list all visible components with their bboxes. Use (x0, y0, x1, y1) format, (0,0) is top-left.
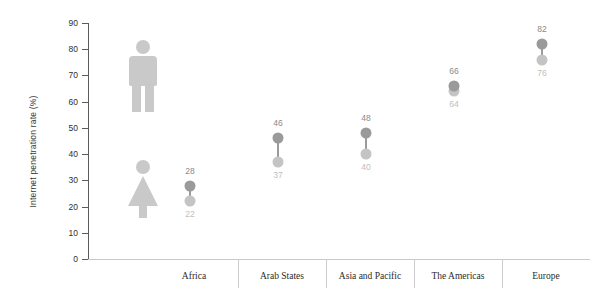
category-label-the-americas: The Americas (431, 271, 484, 281)
male-pictogram-head (136, 40, 150, 54)
male-pictogram-leg-left (132, 84, 141, 112)
data-label-female: 37 (273, 170, 282, 180)
y-axis-tick-label: 90 (58, 18, 78, 28)
category-cell: Asia and Pacific (326, 260, 414, 292)
data-label-male: 46 (273, 118, 282, 128)
category-cell: The Americas (414, 260, 502, 292)
category-label-asia-and-pacific: Asia and Pacific (339, 271, 401, 281)
male-pictogram (126, 40, 160, 112)
y-axis-tick (82, 128, 89, 129)
y-axis-tick-label: 20 (58, 202, 78, 212)
y-axis-tick-label: 60 (58, 97, 78, 107)
data-label-female: 40 (361, 162, 370, 172)
y-axis-tick (82, 23, 89, 24)
female-pictogram-head (136, 160, 150, 174)
y-axis-tick-label: 80 (58, 44, 78, 54)
y-axis-tick (82, 233, 89, 234)
category-label-arab-states: Arab States (260, 271, 304, 281)
data-point-male[interactable] (537, 38, 548, 49)
data-point-female[interactable] (537, 54, 548, 65)
category-cell: Africa (150, 260, 238, 292)
data-point-male[interactable] (361, 128, 372, 139)
male-pictogram-leg-right (145, 84, 154, 112)
y-axis-tick-label: 50 (58, 123, 78, 133)
data-label-male: 66 (449, 66, 458, 76)
male-pictogram-torso (129, 56, 157, 86)
data-point-male[interactable] (449, 80, 460, 91)
y-axis-tick-label: 70 (58, 70, 78, 80)
y-axis-tick (82, 154, 89, 155)
data-label-male: 28 (185, 166, 194, 176)
category-cell: Europe (502, 260, 590, 292)
data-label-female: 64 (449, 99, 458, 109)
data-point-female[interactable] (361, 149, 372, 160)
y-axis-tick-label: 10 (58, 228, 78, 238)
data-label-female: 76 (537, 68, 546, 78)
female-pictogram (126, 160, 160, 218)
data-label-male: 82 (537, 24, 546, 34)
y-axis-tick (82, 207, 89, 208)
y-axis-tick-label: 30 (58, 175, 78, 185)
data-label-female: 22 (185, 209, 194, 219)
category-cell: Arab States (238, 260, 326, 292)
data-point-male[interactable] (273, 133, 284, 144)
y-axis-title: Internet penetration rate (%) (22, 0, 44, 303)
female-pictogram-skirt (128, 176, 158, 206)
data-point-female[interactable] (273, 156, 284, 167)
chart-container: Internet penetration rate (%) 9080706050… (0, 0, 608, 303)
y-axis-tick (82, 75, 89, 76)
y-axis-line (88, 23, 89, 259)
y-axis-tick-label: 0 (58, 254, 78, 264)
y-axis-tick (82, 102, 89, 103)
y-axis-tick (82, 49, 89, 50)
y-axis-tick-label: 40 (58, 149, 78, 159)
data-point-male[interactable] (185, 180, 196, 191)
category-label-africa: Africa (182, 271, 206, 281)
data-point-female[interactable] (185, 196, 196, 207)
x-axis-category-row: AfricaArab StatesAsia and PacificThe Ame… (150, 260, 590, 292)
female-pictogram-legs (139, 204, 147, 218)
data-label-male: 48 (361, 113, 370, 123)
category-label-europe: Europe (532, 271, 559, 281)
y-axis-tick (82, 180, 89, 181)
